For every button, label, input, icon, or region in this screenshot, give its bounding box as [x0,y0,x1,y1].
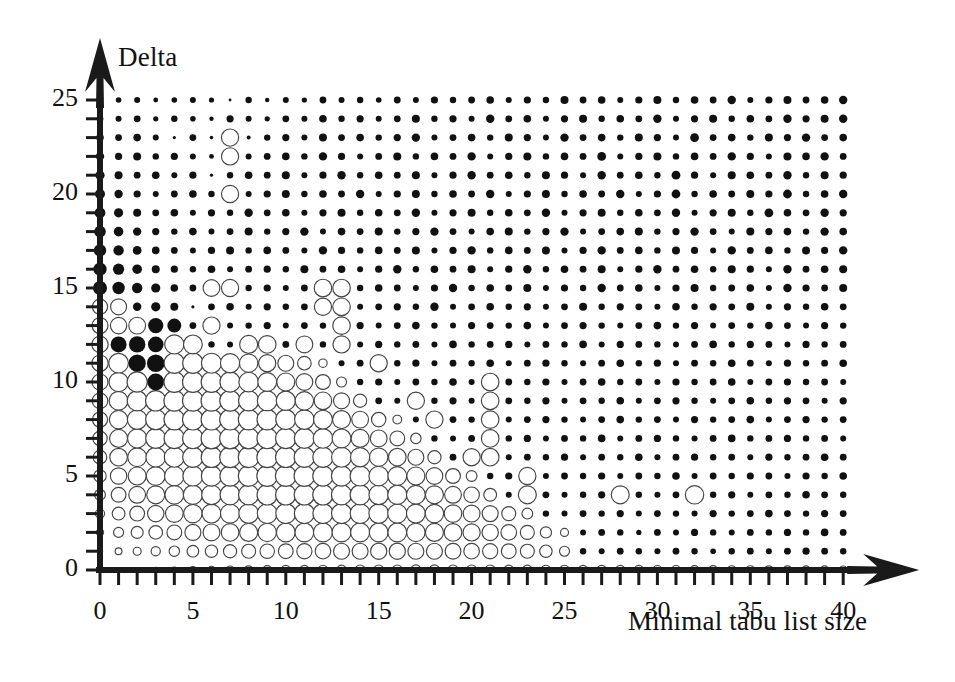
data-marker [190,134,197,141]
data-marker [183,447,203,467]
data-marker [765,190,772,197]
data-marker [803,379,809,385]
data-marker [431,435,437,441]
x-axis-tick-label: 40 [813,596,873,626]
data-marker [598,398,604,404]
data-marker [264,322,271,329]
data-marker [506,322,512,328]
y-axis-tick-label: 20 [18,177,78,207]
data-marker [784,492,790,498]
data-marker [728,378,736,386]
data-marker [245,228,253,236]
data-marker [562,398,568,404]
data-marker [319,134,327,142]
data-marker [166,505,184,523]
data-marker [580,172,586,178]
data-marker [821,510,828,517]
data-marker [543,97,549,103]
data-marker [654,304,660,310]
data-marker [766,360,772,366]
data-marker [449,284,457,292]
data-marker [431,172,437,178]
data-marker [710,97,717,104]
data-marker [406,485,425,504]
data-marker [425,486,443,504]
data-marker [617,548,624,555]
data-marker [710,266,716,272]
data-marker [506,97,512,103]
data-marker [244,209,252,217]
data-marker [301,322,308,329]
data-marker [673,116,679,122]
data-marker [729,116,735,122]
data-marker [728,454,735,461]
data-marker [116,116,122,122]
data-marker [766,285,772,291]
data-marker [276,523,295,542]
data-marker [728,191,735,198]
data-marker [728,152,736,160]
data-marker [431,341,437,347]
data-marker [617,435,623,441]
data-marker [616,416,624,424]
data-marker [635,453,643,461]
data-marker [543,323,549,329]
data-marker [109,353,129,373]
data-marker [208,209,215,216]
data-marker [187,545,199,557]
data-marker [747,97,753,103]
data-marker [357,379,363,385]
data-marker [481,430,499,448]
data-marker [654,454,660,460]
data-marker [297,544,312,559]
data-marker [505,171,513,179]
data-marker [635,303,642,310]
data-marker [334,393,350,409]
data-marker [300,265,308,273]
data-marker [301,116,307,122]
data-marker [486,303,494,311]
data-marker [147,354,165,372]
data-marker [407,523,425,541]
data-marker [239,391,259,411]
data-marker [820,209,828,217]
data-marker [116,97,122,103]
data-marker [375,266,382,273]
data-marker [152,247,160,255]
data-marker [617,266,623,272]
data-marker [580,492,586,498]
data-marker [506,360,512,366]
data-marker [183,466,203,486]
data-marker [357,304,363,310]
data-marker [728,285,735,292]
data-marker [840,322,846,328]
data-marker [190,247,196,253]
data-marker [314,298,331,315]
data-marker [394,247,401,254]
data-marker [131,526,143,538]
data-marker [227,172,233,178]
data-marker [616,228,624,236]
data-marker [426,411,443,428]
data-marker [765,228,772,235]
data-marker [468,265,476,273]
data-marker [543,435,549,441]
data-marker [449,247,456,254]
data-marker [654,492,660,498]
data-marker [394,303,401,310]
data-marker [208,229,214,235]
data-marker [821,96,829,104]
data-marker [301,285,308,292]
data-marker [729,473,735,479]
data-marker [803,435,809,441]
data-marker [376,323,382,329]
data-marker [357,228,364,235]
data-marker [147,374,164,391]
data-marker [580,360,586,366]
data-marker [300,227,308,235]
data-marker [765,172,772,179]
data-marker [709,190,717,198]
data-marker [580,97,587,104]
data-marker [209,97,214,102]
data-marker [561,473,568,480]
